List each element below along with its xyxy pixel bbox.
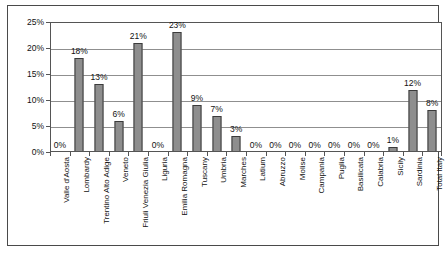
x-axis-tick-mark bbox=[128, 152, 129, 156]
bar-value-label: 21% bbox=[130, 32, 147, 41]
bar-value-label: 13% bbox=[90, 73, 107, 82]
bar-slot[interactable]: 8% bbox=[422, 22, 442, 152]
bar[interactable] bbox=[232, 136, 241, 152]
bar[interactable] bbox=[75, 58, 84, 152]
bar-slot[interactable]: 0% bbox=[148, 22, 168, 152]
bar-value-label: 0% bbox=[328, 141, 340, 150]
x-axis-label-15: Puglia bbox=[338, 157, 346, 179]
x-axis-tick-mark bbox=[168, 152, 169, 156]
x-axis-tick-mark bbox=[266, 152, 267, 156]
bar-value-label: 3% bbox=[230, 125, 242, 134]
bar-slot[interactable]: 0% bbox=[285, 22, 305, 152]
x-axis-tick-mark bbox=[324, 152, 325, 156]
bar-value-label: 8% bbox=[426, 99, 438, 108]
x-axis-label-20: Total Italy bbox=[436, 157, 444, 191]
y-axis-tick-label: 25% bbox=[27, 18, 44, 27]
x-axis-tick-label: Valle d'Aosta bbox=[63, 157, 71, 203]
y-axis-tick-label: 5% bbox=[32, 122, 44, 131]
x-axis-tick-mark bbox=[89, 152, 90, 156]
x-axis-tick-label: Latium bbox=[259, 157, 267, 181]
x-axis-tick-label: Sardinia bbox=[416, 157, 424, 186]
bar-value-label: 0% bbox=[152, 141, 164, 150]
bar[interactable] bbox=[134, 43, 143, 152]
bar-value-label: 23% bbox=[169, 21, 186, 30]
bar-value-label: 9% bbox=[191, 94, 203, 103]
x-axis-tick-label: Veneto bbox=[122, 157, 130, 182]
x-axis-tick-mark bbox=[305, 152, 306, 156]
x-axis-labels: Valle d'AostaLombardyTrentino Alto Adige… bbox=[50, 157, 442, 247]
x-axis-tick-label: Emilia Romagna bbox=[181, 157, 189, 216]
bar-value-label: 0% bbox=[54, 141, 66, 150]
bar-value-label: 18% bbox=[71, 47, 88, 56]
x-axis-tick-label: Campania bbox=[318, 157, 326, 193]
bar[interactable] bbox=[212, 116, 221, 152]
x-axis-tick-label: Molise bbox=[299, 157, 307, 180]
bar-slot[interactable]: 12% bbox=[403, 22, 423, 152]
x-axis-tick-label: Abruzzo bbox=[279, 157, 287, 186]
x-axis-label-19: Sardinia bbox=[416, 157, 424, 186]
y-axis-tick-label: 15% bbox=[27, 70, 44, 79]
bar-slot[interactable]: 0% bbox=[50, 22, 70, 152]
x-axis-tick-label: Calabria bbox=[377, 157, 385, 187]
bar[interactable] bbox=[408, 90, 417, 152]
bar-slot[interactable]: 6% bbox=[109, 22, 129, 152]
bar-slot[interactable]: 0% bbox=[364, 22, 384, 152]
bar-value-label: 0% bbox=[348, 141, 360, 150]
x-axis-label-10: Marches bbox=[240, 157, 248, 188]
y-axis: 0%5%10%15%20%25% bbox=[16, 16, 50, 158]
x-axis-tick-label: Friuli Venezia Giulia bbox=[142, 157, 150, 228]
x-axis-tick-mark bbox=[285, 152, 286, 156]
bar-slot[interactable]: 0% bbox=[246, 22, 266, 152]
x-axis-tick-label: Tuscany bbox=[201, 157, 209, 187]
x-axis-label-5: Friuli Venezia Giulia bbox=[142, 157, 150, 228]
x-axis-tick-label: Liguria bbox=[161, 157, 169, 181]
bar-slot[interactable]: 23% bbox=[168, 22, 188, 152]
y-axis-tick-label: 0% bbox=[32, 148, 44, 157]
bar-value-label: 0% bbox=[289, 141, 301, 150]
bar[interactable] bbox=[428, 110, 437, 152]
bar-slot[interactable]: 7% bbox=[207, 22, 227, 152]
x-axis-tick-label: Marches bbox=[240, 157, 248, 188]
x-axis-tick-label: Basilicata bbox=[357, 157, 365, 191]
bar-slot[interactable]: 0% bbox=[305, 22, 325, 152]
bar[interactable] bbox=[173, 32, 182, 152]
bar-slot[interactable]: 9% bbox=[187, 22, 207, 152]
x-axis-tick-mark bbox=[246, 152, 247, 156]
bar-slot[interactable]: 0% bbox=[266, 22, 286, 152]
x-axis-tick-label: Sicily bbox=[397, 157, 405, 176]
bar-value-label: 0% bbox=[269, 141, 281, 150]
x-axis-label-14: Campania bbox=[318, 157, 326, 193]
x-axis-tick-mark bbox=[441, 152, 442, 156]
x-axis-tick-mark bbox=[226, 152, 227, 156]
bar-slot[interactable]: 1% bbox=[383, 22, 403, 152]
bar[interactable] bbox=[192, 105, 201, 152]
bar-value-label: 1% bbox=[387, 136, 399, 145]
bar-value-label: 0% bbox=[250, 141, 262, 150]
x-axis-tick-label: Lombardy bbox=[83, 157, 91, 193]
x-axis-label-17: Calabria bbox=[377, 157, 385, 187]
bars-layer: 0%18%13%6%21%0%23%9%7%3%0%0%0%0%0%0%0%1%… bbox=[50, 22, 442, 152]
x-axis-label-8: Tuscany bbox=[201, 157, 209, 187]
x-axis-label-13: Molise bbox=[299, 157, 307, 180]
bar-slot[interactable]: 21% bbox=[128, 22, 148, 152]
bar[interactable] bbox=[114, 121, 123, 152]
bar[interactable] bbox=[94, 84, 103, 152]
x-axis-tick-mark bbox=[364, 152, 365, 156]
chart-frame: 0%5%10%15%20%25% 0%18%13%6%21%0%23%9%7%3… bbox=[7, 5, 439, 246]
bar-slot[interactable]: 3% bbox=[226, 22, 246, 152]
x-axis-tick-mark bbox=[109, 152, 110, 156]
bar-slot[interactable]: 18% bbox=[70, 22, 90, 152]
x-axis-tick-mark bbox=[422, 152, 423, 156]
bar-slot[interactable]: 0% bbox=[344, 22, 364, 152]
x-axis-tick-mark bbox=[207, 152, 208, 156]
x-axis-label-6: Liguria bbox=[161, 157, 169, 181]
x-axis-label-18: Sicily bbox=[397, 157, 405, 176]
x-axis-label-2: Lombardy bbox=[83, 157, 91, 193]
bar-slot[interactable]: 0% bbox=[324, 22, 344, 152]
x-axis-tick-mark bbox=[187, 152, 188, 156]
x-axis-tick-mark bbox=[344, 152, 345, 156]
x-axis-label-3: Trentino Alto Adige bbox=[103, 157, 111, 224]
x-axis-tick-mark bbox=[148, 152, 149, 156]
x-axis-tick-label: Total Italy bbox=[436, 157, 444, 191]
bar-slot[interactable]: 13% bbox=[89, 22, 109, 152]
